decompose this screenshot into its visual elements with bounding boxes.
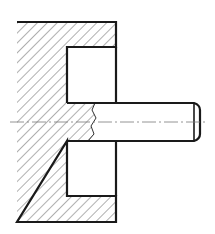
section-drawing [0,0,215,234]
drawing-canvas: Sectional view of pin pressed into housi… [0,0,215,234]
